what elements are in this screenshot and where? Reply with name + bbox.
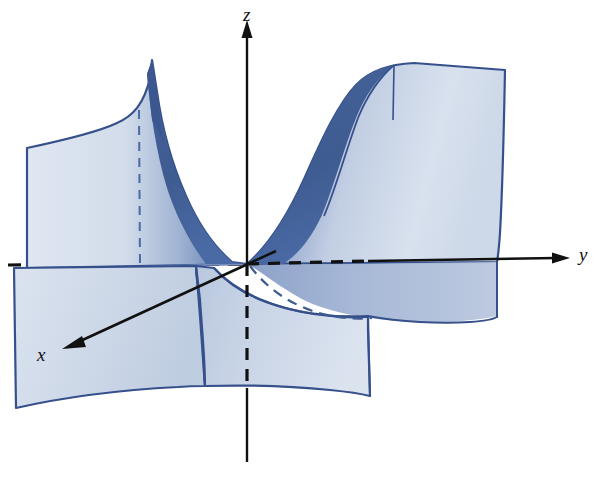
x-axis-label: x	[37, 345, 45, 364]
z-axis-label: z	[243, 5, 250, 24]
surface-front-left	[14, 266, 205, 408]
surface-right-sheet	[247, 63, 505, 264]
y-axis-label: y	[579, 245, 587, 264]
left-sheet-back-face	[27, 60, 247, 268]
y-axis-arrowhead	[552, 253, 570, 264]
figure-container: z y x	[0, 0, 601, 479]
z-axis	[242, 20, 253, 462]
front-left-face	[14, 266, 205, 408]
surface-figure	[0, 0, 601, 479]
surface-left-sheet	[27, 60, 247, 268]
right-sheet-inner-edge	[393, 65, 394, 120]
